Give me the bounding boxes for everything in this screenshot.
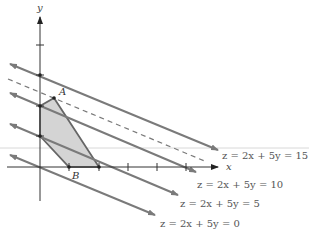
label-z5: z = 2x + 5y = 5: [180, 198, 260, 209]
point-label-b: B: [71, 170, 79, 181]
level-line-z10: [10, 93, 196, 172]
linear-programming-diagram: y x A B z = 2x + 5y = 15 z = 2x + 5y = 1…: [0, 0, 309, 244]
label-z10: z = 2x + 5y = 10: [197, 179, 283, 190]
label-z0: z = 2x + 5y = 0: [160, 218, 240, 229]
label-z15: z = 2x + 5y = 15: [222, 150, 308, 161]
level-line-z5: [10, 124, 178, 195]
level-line-dashed: [8, 79, 207, 162]
y-axis-label: y: [36, 2, 43, 13]
x-axis-label: x: [226, 161, 232, 172]
point-label-a: A: [58, 86, 66, 97]
feasible-region: [40, 98, 99, 167]
